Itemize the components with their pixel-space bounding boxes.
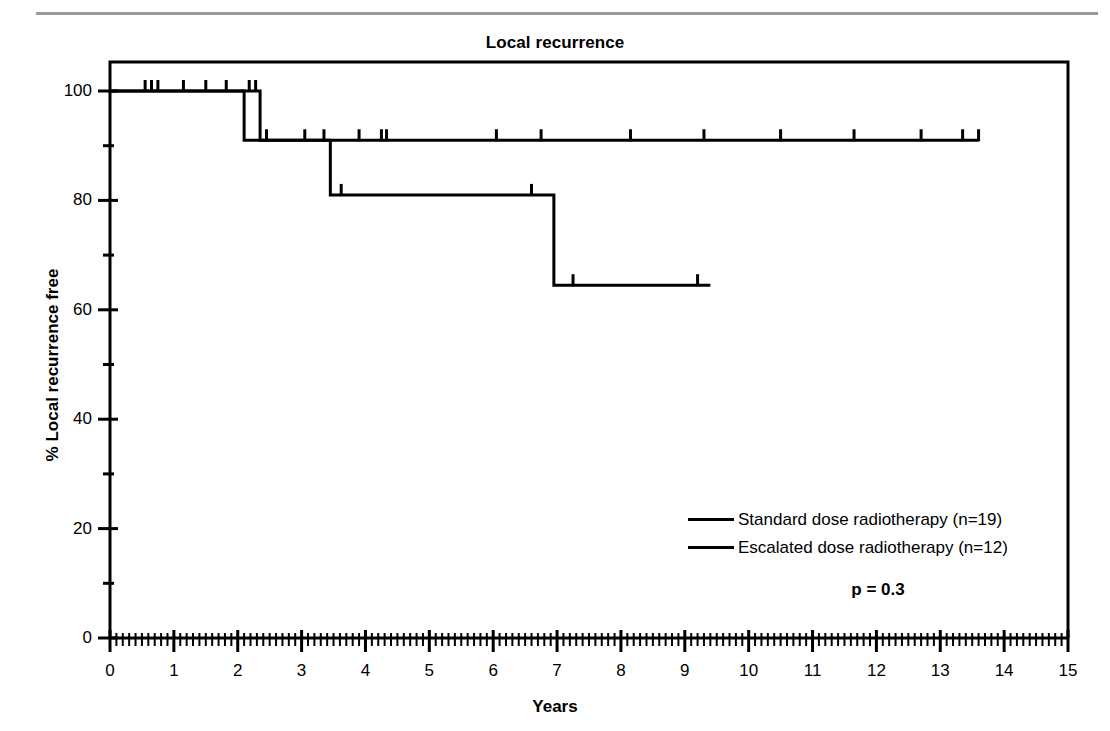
- legend-line-swatch-standard: [688, 518, 734, 521]
- kaplan-meier-plot: [0, 0, 1110, 731]
- x-tick-label: 0: [90, 662, 130, 679]
- legend-item-standard-dose[interactable]: Standard dose radiotherapy (n=19): [688, 505, 1068, 533]
- x-tick-label: 7: [537, 662, 577, 679]
- x-axis-ticks: [110, 630, 1068, 652]
- x-tick-label: 1: [154, 662, 194, 679]
- x-tick-label: 12: [856, 662, 896, 679]
- y-tick-label: 40: [32, 410, 92, 427]
- y-tick-label: 20: [32, 520, 92, 537]
- legend-line-swatch-escalated: [688, 546, 734, 549]
- figure-page: Local recurrence % Local recurrence free…: [0, 0, 1110, 731]
- x-tick-label: 13: [920, 662, 960, 679]
- x-tick-label: 5: [409, 662, 449, 679]
- y-tick-label: 80: [32, 191, 92, 208]
- p-value-annotation: p = 0.3: [688, 580, 1068, 600]
- x-tick-label: 15: [1048, 662, 1088, 679]
- x-tick-label: 4: [345, 662, 385, 679]
- legend-label-escalated: Escalated dose radiotherapy (n=12): [738, 539, 1008, 556]
- legend-item-escalated-dose[interactable]: Escalated dose radiotherapy (n=12): [688, 533, 1068, 561]
- legend: Standard dose radiotherapy (n=19) Escala…: [688, 505, 1068, 561]
- x-tick-label: 14: [984, 662, 1024, 679]
- x-tick-label: 8: [601, 662, 641, 679]
- y-tick-label: 100: [32, 82, 92, 99]
- x-tick-label: 11: [793, 662, 833, 679]
- y-tick-label: 0: [32, 629, 92, 646]
- series-layer: [110, 80, 979, 286]
- x-tick-label: 6: [473, 662, 513, 679]
- y-axis-ticks: [98, 91, 118, 638]
- legend-label-standard: Standard dose radiotherapy (n=19): [738, 511, 1002, 528]
- step-line: [110, 91, 710, 285]
- y-tick-label: 60: [32, 301, 92, 318]
- x-tick-label: 9: [665, 662, 705, 679]
- series-escalated-dose: [110, 91, 979, 141]
- x-tick-label: 10: [729, 662, 769, 679]
- step-line: [110, 91, 979, 140]
- series-standard-dose: [110, 80, 710, 286]
- x-tick-label: 3: [282, 662, 322, 679]
- x-tick-label: 2: [218, 662, 258, 679]
